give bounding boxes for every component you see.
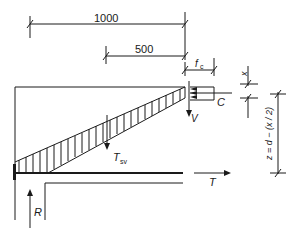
anchorage-plate [13,164,16,180]
label-fc-sub: c [200,63,204,70]
arrow-t-icon [224,170,231,176]
label-x: x [239,71,249,77]
label-500: 500 [135,43,153,55]
label-c: C [217,96,225,108]
compression-strut [15,87,185,173]
arrow-c2-icon [190,91,197,95]
label-fc: f [195,58,199,69]
label-t: T [209,176,217,188]
diagram-canvas: 1000 500 f c C V T sv T R x z = d − (x /… [0,0,299,230]
arrow-r-icon [27,189,33,196]
arrow-c3-icon [190,95,197,99]
label-r: R [34,206,42,218]
label-tsv-sub: sv [120,158,128,165]
label-z: z = d − (x / 2) [264,107,274,161]
arrow-c1-icon [190,87,197,91]
label-1000: 1000 [94,12,118,24]
label-v: V [191,113,199,124]
arrow-tsv-icon [104,143,110,150]
